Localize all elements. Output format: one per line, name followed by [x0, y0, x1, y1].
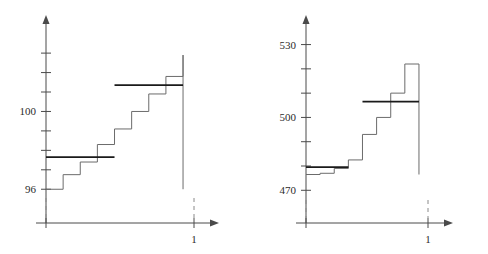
chart-panel-right: 470 500 530 1: [244, 0, 488, 254]
x-tick-label-1-left: 1: [191, 233, 197, 245]
step-series-left: [46, 55, 183, 189]
x-tick-label-1-right: 1: [425, 233, 431, 245]
y-tick-label-470: 470: [280, 184, 297, 196]
y-axis-right: [303, 15, 310, 223]
figure-container: 96 100 1: [0, 0, 488, 254]
step-chart-right: 470 500 530 1: [244, 0, 488, 254]
chart-panel-left: 96 100 1: [0, 0, 244, 254]
x-axis-left: [36, 218, 219, 228]
y-tick-label-96: 96: [25, 183, 37, 195]
y-axis-left: [43, 15, 50, 223]
x-axis-right: [296, 218, 453, 228]
y-tick-label-100: 100: [20, 105, 37, 117]
dashed-guides-right: [306, 200, 428, 218]
y-tick-label-530: 530: [280, 39, 297, 51]
y-tick-label-500: 500: [280, 111, 297, 123]
dashed-guides-left: [46, 198, 194, 218]
step-chart-left: 96 100 1: [0, 0, 244, 254]
step-series-right: [306, 64, 419, 175]
